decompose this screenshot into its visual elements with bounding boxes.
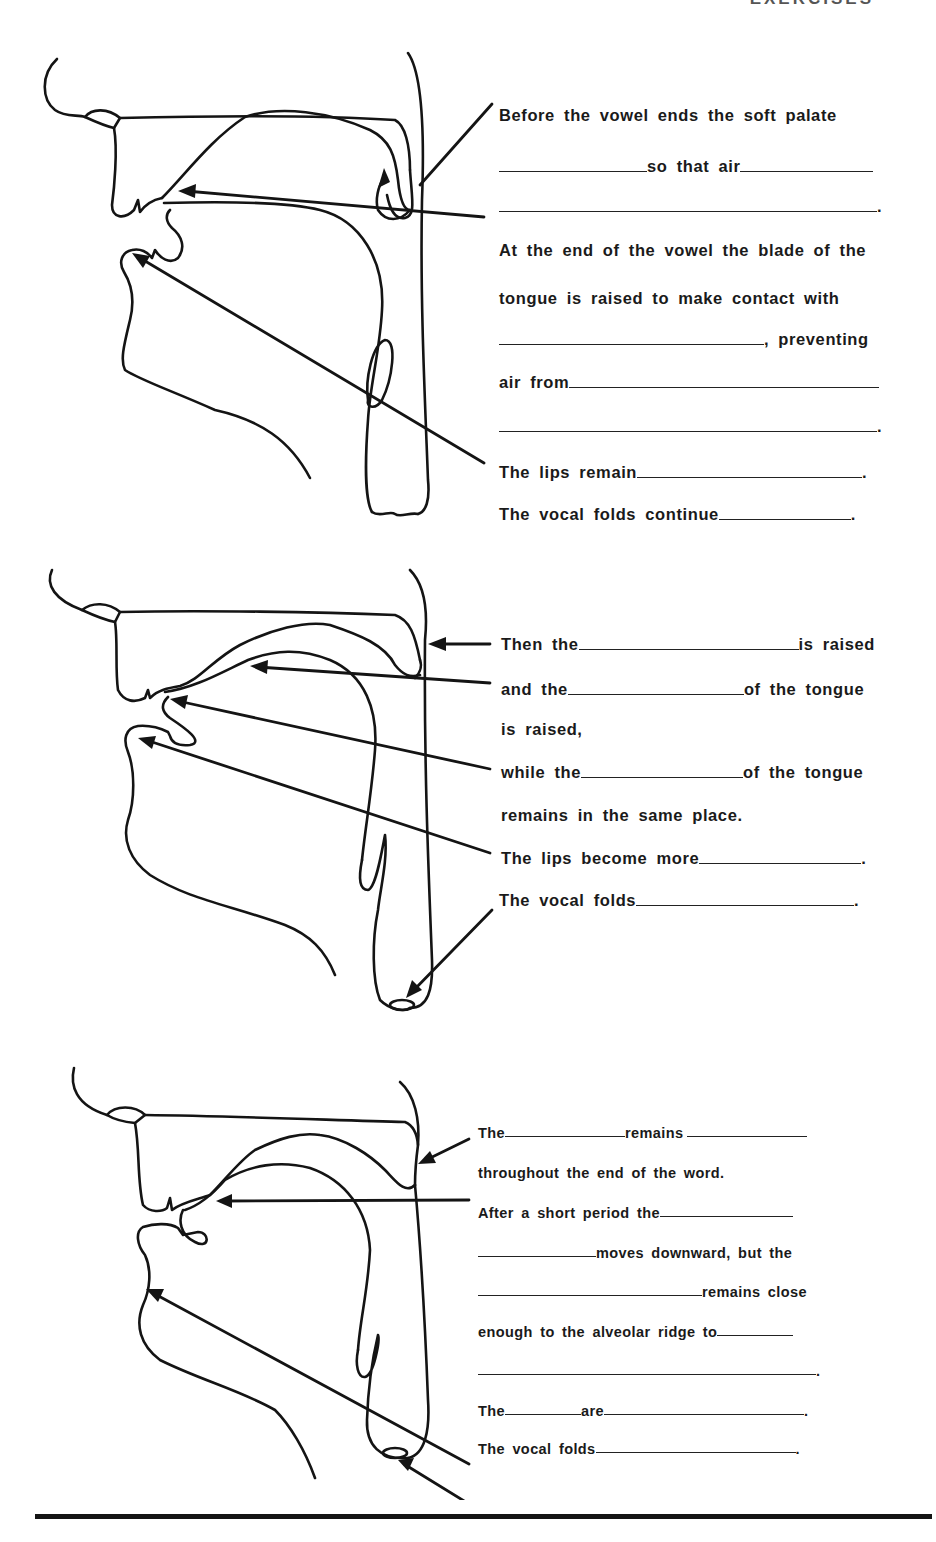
answer-blank[interactable] bbox=[740, 170, 873, 172]
text-line: The vocal folds continue . bbox=[499, 505, 856, 524]
vocal-tract-diagram-1 bbox=[0, 0, 500, 530]
answer-blank[interactable] bbox=[478, 1373, 816, 1375]
answer-blank[interactable] bbox=[499, 430, 877, 432]
answer-blank[interactable] bbox=[499, 210, 877, 212]
text-line: remains close bbox=[478, 1284, 807, 1300]
text-line: Before the vowel ends the soft palate bbox=[499, 106, 837, 125]
text-line: throughout the end of the word. bbox=[478, 1165, 724, 1181]
answer-blank[interactable] bbox=[478, 1294, 702, 1296]
text-line: , preventing bbox=[499, 330, 869, 349]
text-line: moves downward, but the bbox=[478, 1245, 792, 1261]
answer-blank[interactable] bbox=[505, 1135, 625, 1137]
text-line: After a short period the bbox=[478, 1205, 793, 1221]
answer-blank[interactable] bbox=[478, 1255, 596, 1257]
text-line: remains in the same place. bbox=[501, 806, 743, 825]
answer-blank[interactable] bbox=[505, 1413, 581, 1415]
answer-blank[interactable] bbox=[660, 1215, 793, 1217]
text-line: The are . bbox=[478, 1403, 808, 1419]
answer-blank[interactable] bbox=[569, 386, 879, 388]
answer-blank[interactable] bbox=[699, 862, 861, 864]
text-line: Then the is raised bbox=[501, 635, 875, 654]
answer-blank[interactable] bbox=[636, 904, 854, 906]
text-line: so that air bbox=[499, 157, 873, 176]
answer-blank[interactable] bbox=[717, 1334, 793, 1336]
text-line: air from bbox=[499, 373, 879, 392]
text-line: . bbox=[478, 1363, 820, 1379]
answer-blank[interactable] bbox=[596, 1451, 796, 1453]
answer-blank[interactable] bbox=[719, 518, 851, 520]
answer-blank[interactable] bbox=[637, 476, 862, 478]
text-line: and the of the tongue bbox=[501, 680, 864, 699]
text-line: tongue is raised to make contact with bbox=[499, 289, 840, 308]
answer-blank[interactable] bbox=[687, 1135, 807, 1137]
text-line: enough to the alveolar ridge to bbox=[478, 1324, 793, 1340]
text-line: The vocal folds . bbox=[499, 891, 859, 910]
vocal-tract-diagram-2 bbox=[0, 560, 500, 1020]
answer-blank[interactable] bbox=[568, 693, 744, 695]
text-line: while the of the tongue bbox=[501, 763, 863, 782]
text-line: . bbox=[499, 417, 882, 436]
text-line: . bbox=[499, 197, 882, 216]
text-line: The remains bbox=[478, 1125, 807, 1141]
answer-blank[interactable] bbox=[581, 776, 743, 778]
answer-blank[interactable] bbox=[579, 648, 799, 650]
answer-blank[interactable] bbox=[499, 343, 764, 345]
page-header: EXERCISES bbox=[750, 0, 874, 9]
vocal-tract-diagram-3 bbox=[0, 1060, 490, 1500]
answer-blank[interactable] bbox=[499, 170, 647, 172]
bottom-rule-divider bbox=[35, 1514, 932, 1519]
text-line: At the end of the vowel the blade of the bbox=[499, 241, 866, 260]
text-line: The lips become more . bbox=[501, 849, 866, 868]
text-line: is raised, bbox=[501, 720, 583, 739]
text-line: The vocal folds . bbox=[478, 1441, 800, 1457]
answer-blank[interactable] bbox=[604, 1413, 804, 1415]
text-line: The lips remain . bbox=[499, 463, 867, 482]
